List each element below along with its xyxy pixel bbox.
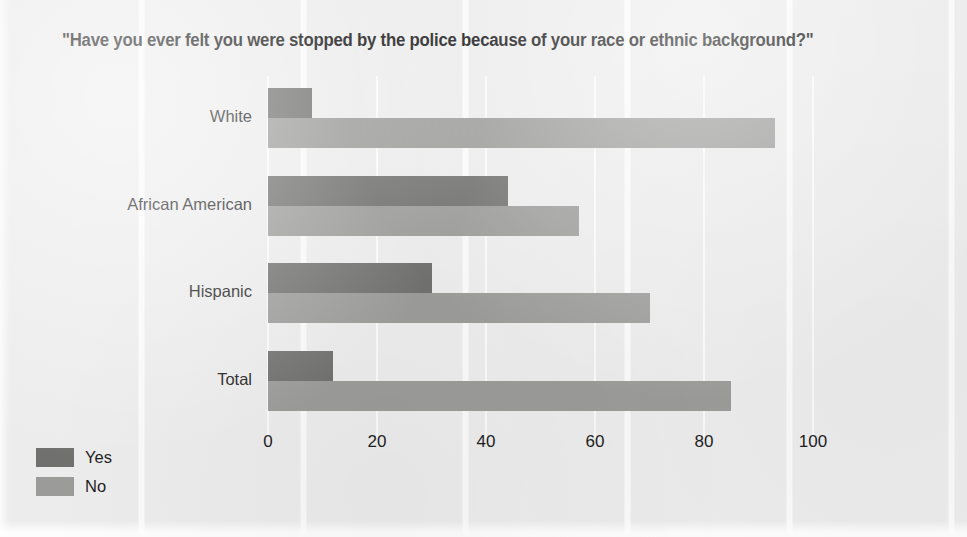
category-label-african-american: African American [2,195,252,214]
bar-white-no [268,118,775,148]
legend-label-no: No [85,477,106,496]
bar-group-total [268,351,813,419]
chart-title: "Have you ever felt you were stopped by … [62,30,813,51]
x-axis-tick-labels: 020406080100 [268,432,813,460]
bar-group-hispanic [268,263,813,331]
chart-figure: "Have you ever felt you were stopped by … [0,0,967,537]
category-label-hispanic: Hispanic [2,282,252,301]
chart-legend: Yes No [36,444,112,502]
legend-item-no: No [36,473,112,499]
gridline-100 [812,76,814,438]
bar-african-american-no [268,206,579,236]
legend-label-yes: Yes [85,448,112,467]
x-tick-label-80: 80 [695,432,714,452]
category-axis-labels: WhiteAfrican AmericanHispanicTotal [0,78,252,428]
x-tick-label-0: 0 [263,432,272,452]
plot-area [268,78,813,428]
x-tick-label-40: 40 [477,432,496,452]
x-tick-label-100: 100 [799,432,827,452]
bar-total-no [268,381,731,411]
legend-swatch-yes [36,448,74,467]
bar-white-yes [268,88,312,118]
category-label-total: Total [2,370,252,389]
paper-edge-bottom [0,521,967,537]
legend-swatch-no [36,477,74,496]
bar-total-yes [268,351,333,381]
category-label-white: White [2,107,252,126]
x-tick-label-60: 60 [586,432,605,452]
bar-hispanic-yes [268,263,432,293]
bar-hispanic-no [268,293,650,323]
x-tick-label-20: 20 [368,432,387,452]
bar-group-african-american [268,176,813,244]
legend-item-yes: Yes [36,444,112,470]
bar-group-white [268,88,813,156]
bar-african-american-yes [268,176,508,206]
